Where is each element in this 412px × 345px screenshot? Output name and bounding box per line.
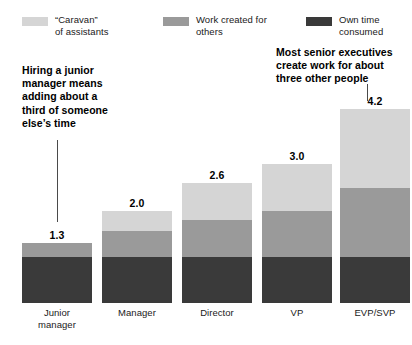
bar-category-label: Junior manager [16, 307, 98, 330]
bar-segment[interactable] [182, 257, 252, 303]
bar-category-label: Manager [96, 307, 178, 319]
bar-segment[interactable] [262, 257, 332, 303]
bar-value-label: 2.0 [102, 197, 172, 209]
bar-value-label: 4.2 [340, 95, 410, 107]
bar-category-label: Director [176, 307, 258, 319]
bar-category-label: EVP/SVP [334, 307, 412, 319]
bar-group: 4.2EVP/SVP [340, 93, 410, 303]
bar-segment[interactable] [262, 211, 332, 257]
bar-segment[interactable] [22, 243, 92, 257]
bar-group: 3.0VP [262, 148, 332, 303]
bar-stack[interactable] [102, 211, 172, 303]
bar-segment[interactable] [102, 257, 172, 303]
bar-stack[interactable] [182, 183, 252, 303]
bar-segment[interactable] [22, 257, 92, 303]
bar-segment[interactable] [340, 257, 410, 303]
bar-segment[interactable] [262, 164, 332, 210]
bar-group: 1.3Junior manager [22, 227, 92, 303]
bar-group: 2.6Director [182, 167, 252, 303]
bar-value-label: 2.6 [182, 169, 252, 181]
bar-value-label: 3.0 [262, 150, 332, 162]
stacked-bar-chart: “Caravan” of assistants Work created for… [0, 0, 412, 345]
bar-segment[interactable] [102, 231, 172, 256]
bar-segment[interactable] [340, 188, 410, 257]
bar-segment[interactable] [102, 211, 172, 232]
plot-area: 1.3Junior manager2.0Manager2.6Director3.… [0, 0, 412, 345]
bar-stack[interactable] [22, 243, 92, 303]
bar-category-label: VP [256, 307, 338, 319]
bar-value-label: 1.3 [22, 229, 92, 241]
bar-segment[interactable] [340, 109, 410, 188]
bar-stack[interactable] [262, 164, 332, 303]
bar-segment[interactable] [182, 183, 252, 220]
bar-stack[interactable] [340, 109, 410, 303]
bar-segment[interactable] [182, 220, 252, 257]
bar-group: 2.0Manager [102, 195, 172, 303]
